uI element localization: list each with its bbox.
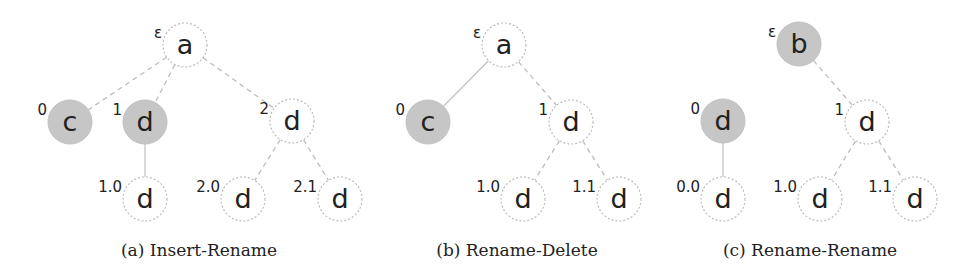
edge-n2-n20 — [255, 140, 281, 181]
tree-node: d1 — [538, 100, 593, 144]
node-label: d — [714, 105, 731, 136]
node-label: d — [514, 183, 531, 214]
panel-caption: (b) Rename-Delete — [436, 240, 598, 260]
panel-a: aεc0d1d2d1.0d2.0d2.1(a) Insert-Rename — [37, 23, 362, 260]
position-label: 1.0 — [98, 178, 122, 196]
position-label: 1.1 — [868, 178, 892, 196]
edge-n1-n10 — [832, 141, 856, 180]
tree-node: d1.0 — [773, 177, 842, 221]
tree-node: d1.0 — [98, 177, 167, 221]
node-label: d — [331, 183, 348, 214]
tree-node: d1 — [112, 100, 167, 144]
edge-n1-n11 — [583, 141, 608, 181]
tree-node: d1.1 — [868, 177, 937, 221]
node-label: d — [234, 183, 251, 214]
node-label: d — [562, 106, 579, 137]
position-label: 1 — [834, 101, 844, 119]
panel-c: bεd0d1d0.0d1.0d1.1(c) Rename-Rename — [676, 22, 937, 260]
position-label: 0 — [690, 100, 700, 118]
node-label: d — [811, 183, 828, 214]
position-label: ε — [154, 24, 162, 42]
panel-b: aεc0d1d1.0d1.1(b) Rename-Delete — [395, 23, 641, 260]
node-label: b — [790, 28, 807, 59]
panel-caption: (a) Insert-Rename — [121, 240, 277, 260]
tree-node: d1 — [834, 100, 889, 144]
node-label: d — [610, 183, 627, 214]
tree-node: aε — [154, 23, 207, 67]
node-label: d — [858, 106, 875, 137]
position-label: 1.1 — [572, 178, 596, 196]
position-label: 2 — [259, 100, 269, 118]
position-label: 0 — [37, 101, 47, 119]
tree-node: d1.0 — [476, 177, 545, 221]
tree-diagram: aεc0d1d2d1.0d2.0d2.1(a) Insert-Renameaεc… — [0, 0, 968, 278]
tree-node: aε — [473, 23, 526, 67]
node-label: d — [714, 183, 731, 214]
position-label: 2.0 — [196, 178, 220, 196]
node-label: d — [136, 106, 153, 137]
position-label: 1 — [112, 101, 122, 119]
edge-root-n1 — [518, 62, 556, 106]
tree-node: d1.1 — [572, 177, 641, 221]
tree-node: bε — [768, 22, 821, 66]
node-label: d — [283, 105, 300, 136]
edge-root-n0 — [444, 61, 489, 107]
node-label: d — [906, 183, 923, 214]
position-label: 0 — [395, 101, 405, 119]
edge-n2-n21 — [304, 140, 329, 181]
position-label: 1 — [538, 101, 548, 119]
node-label: a — [177, 29, 194, 60]
position-label: 1.0 — [476, 178, 500, 196]
node-label: a — [496, 29, 513, 60]
edge-root-n1 — [155, 65, 175, 103]
position-label: 1.0 — [773, 178, 797, 196]
position-label: ε — [473, 24, 481, 42]
position-label: ε — [768, 23, 776, 41]
tree-node: d2.1 — [293, 177, 362, 221]
node-label: c — [63, 106, 78, 137]
tree-node: c0 — [395, 100, 450, 144]
tree-node: d2 — [259, 99, 314, 143]
edge-n1-n11 — [879, 141, 904, 181]
node-label: c — [421, 106, 436, 137]
panel-caption: (c) Rename-Rename — [723, 240, 897, 260]
position-label: 0.0 — [676, 178, 700, 196]
tree-node: d0 — [690, 99, 745, 143]
node-label: d — [136, 183, 153, 214]
edge-root-n1 — [814, 61, 853, 106]
position-label: 2.1 — [293, 178, 317, 196]
tree-node: d2.0 — [196, 177, 265, 221]
edge-n1-n10 — [535, 141, 560, 181]
tree-node: d0.0 — [676, 177, 745, 221]
tree-node: c0 — [37, 100, 92, 144]
